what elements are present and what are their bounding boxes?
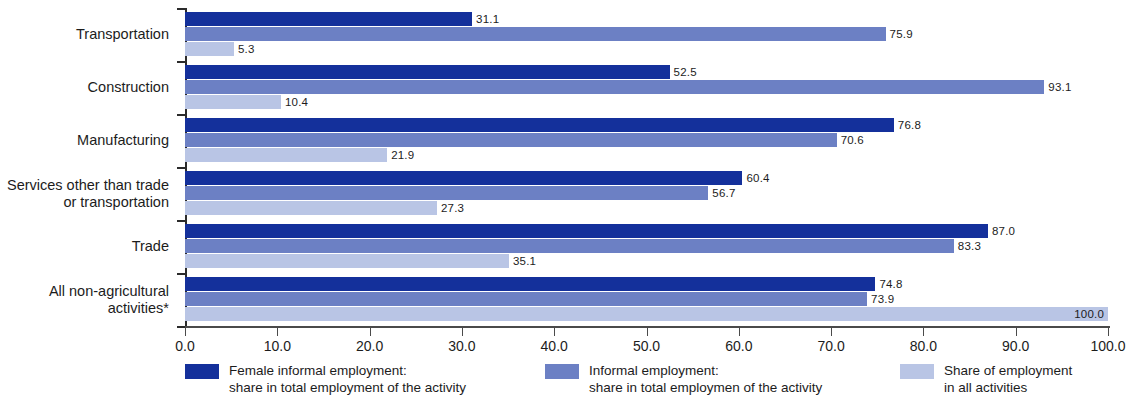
- bar-series-3: [185, 42, 234, 56]
- bar-value-label: 56.7: [708, 186, 735, 198]
- bar-row: 87.0: [185, 224, 1108, 238]
- bar-series-2: [185, 186, 708, 200]
- x-axis-tick: [831, 328, 832, 336]
- bar-value-label: 76.8: [894, 118, 921, 130]
- y-axis-category-label: Construction: [0, 79, 169, 96]
- bar-group: 74.873.9100.0: [185, 277, 1108, 321]
- bar-value-label: 73.9: [867, 292, 894, 304]
- bar-series-2: [185, 27, 886, 41]
- x-axis-tick-label: 100.0: [1090, 338, 1125, 354]
- bar-value-label: 35.1: [509, 254, 536, 266]
- x-axis-tick-label: 80.0: [910, 338, 937, 354]
- y-axis-tick: [177, 167, 185, 169]
- legend-item[interactable]: Female informal employment: share in tot…: [185, 362, 466, 396]
- bar-value-label: 21.9: [387, 148, 414, 160]
- x-axis-tick: [185, 328, 186, 336]
- y-axis-tick: [177, 326, 185, 328]
- x-axis-tick-label: 90.0: [1002, 338, 1029, 354]
- bar-series-3: [185, 307, 1108, 321]
- bar-group: 76.870.621.9: [185, 118, 1108, 162]
- bar-row: 76.8: [185, 118, 1108, 132]
- x-axis-tick-label: 50.0: [633, 338, 660, 354]
- bar-row: 73.9: [185, 292, 1108, 306]
- bar-row: 35.1: [185, 254, 1108, 268]
- y-axis-category-label: Trade: [0, 238, 169, 255]
- bar-group: 31.175.95.3: [185, 12, 1108, 56]
- bar-row: 70.6: [185, 133, 1108, 147]
- x-axis-tick-label: 0.0: [175, 338, 194, 354]
- bar-group: 60.456.727.3: [185, 171, 1108, 215]
- bar-chart-informal-employment: TransportationConstructionManufacturingS…: [0, 0, 1143, 411]
- bar-row: 74.8: [185, 277, 1108, 291]
- bar-row: 93.1: [185, 80, 1108, 94]
- x-axis-tick-label: 20.0: [356, 338, 383, 354]
- bar-series-1: [185, 118, 894, 132]
- bar-row: 21.9: [185, 148, 1108, 162]
- legend-item-label: Female informal employment: share in tot…: [229, 362, 466, 396]
- bar-row: 31.1: [185, 12, 1108, 26]
- bar-series-1: [185, 65, 670, 79]
- legend-item-label: Share of employment in all activities: [944, 362, 1072, 396]
- chart-legend: Female informal employment: share in tot…: [0, 362, 1143, 411]
- x-axis-tick-label: 40.0: [541, 338, 568, 354]
- legend-swatch-female-informal: [185, 364, 219, 379]
- bar-row: 52.5: [185, 65, 1108, 79]
- bar-series-3: [185, 254, 509, 268]
- legend-swatch-informal: [545, 364, 579, 379]
- bar-series-1: [185, 224, 988, 238]
- bar-series-3: [185, 148, 387, 162]
- bar-value-label: 74.8: [875, 277, 902, 289]
- y-axis-tick: [177, 273, 185, 275]
- x-axis-tick: [647, 328, 648, 336]
- bar-value-label: 27.3: [437, 201, 464, 213]
- bar-value-label: 100.0: [1074, 307, 1104, 319]
- bar-series-3: [185, 95, 281, 109]
- y-axis-category-label: All non-agricultural activities*: [0, 283, 169, 317]
- x-axis-tick-label: 60.0: [725, 338, 752, 354]
- bar-series-1: [185, 171, 742, 185]
- bar-row: 100.0: [185, 307, 1108, 321]
- x-axis-tick: [923, 328, 924, 336]
- bar-row: 75.9: [185, 27, 1108, 41]
- x-axis-tick-label: 10.0: [264, 338, 291, 354]
- bar-value-label: 70.6: [837, 133, 864, 145]
- bar-value-label: 75.9: [886, 27, 913, 39]
- x-axis-line: [185, 326, 1110, 328]
- bar-series-1: [185, 12, 472, 26]
- x-axis-tick: [739, 328, 740, 336]
- x-axis-tick: [277, 328, 278, 336]
- bar-value-label: 5.3: [234, 42, 255, 54]
- y-axis-category-label: Manufacturing: [0, 132, 169, 149]
- bar-value-label: 87.0: [988, 224, 1015, 236]
- x-axis-tick: [1108, 328, 1109, 336]
- y-axis-tick: [177, 114, 185, 116]
- y-axis-category-label: Transportation: [0, 26, 169, 43]
- y-axis-category-labels: TransportationConstructionManufacturingS…: [0, 8, 178, 326]
- bar-value-label: 93.1: [1044, 80, 1071, 92]
- bar-series-1: [185, 277, 875, 291]
- bar-value-label: 60.4: [742, 171, 769, 183]
- bar-series-2: [185, 133, 837, 147]
- bar-series-3: [185, 201, 437, 215]
- bar-series-2: [185, 292, 867, 306]
- x-axis-tick: [370, 328, 371, 336]
- bar-value-label: 31.1: [472, 12, 499, 24]
- y-axis-tick: [177, 8, 185, 10]
- legend-item[interactable]: Informal employment: share in total empl…: [545, 362, 822, 396]
- x-axis-tick: [1016, 328, 1017, 336]
- bar-value-label: 83.3: [954, 239, 981, 251]
- x-axis-tick-label: 70.0: [817, 338, 844, 354]
- bar-row: 60.4: [185, 171, 1108, 185]
- bar-row: 56.7: [185, 186, 1108, 200]
- bar-row: 10.4: [185, 95, 1108, 109]
- bar-value-label: 52.5: [670, 65, 697, 77]
- y-axis-tick: [177, 220, 185, 222]
- bar-series-2: [185, 239, 954, 253]
- bar-row: 83.3: [185, 239, 1108, 253]
- legend-item[interactable]: Share of employment in all activities: [900, 362, 1072, 396]
- legend-item-label: Informal employment: share in total empl…: [589, 362, 822, 396]
- y-axis-category-label: Services other than trade or transportat…: [0, 177, 169, 211]
- bar-value-label: 10.4: [281, 95, 308, 107]
- bar-row: 27.3: [185, 201, 1108, 215]
- bar-group: 52.593.110.4: [185, 65, 1108, 109]
